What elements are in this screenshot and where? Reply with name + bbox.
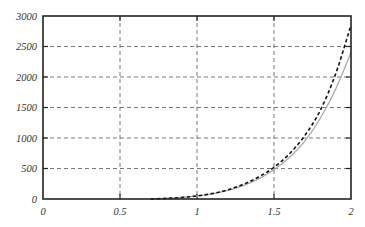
grid-lines	[43, 16, 351, 199]
x-tick-label: 2	[348, 206, 354, 217]
y-tick-label: 0	[32, 194, 38, 205]
y-axis-tick-labels: 050010001500200025003000	[15, 11, 38, 205]
y-tick-label: 500	[21, 163, 38, 174]
data-series	[151, 25, 351, 199]
x-tick-label: 1	[194, 206, 199, 217]
y-tick-label: 3000	[15, 11, 38, 22]
x-tick-label: 0.5	[113, 206, 126, 217]
y-tick-label: 1000	[16, 133, 38, 144]
x-tick-label: 1.5	[267, 206, 280, 217]
y-tick-label: 2500	[16, 41, 38, 52]
x-axis-tick-labels: 00.511.52	[40, 206, 354, 217]
line-chart: 050010001500200025003000 00.511.52	[0, 0, 365, 227]
y-tick-label: 1500	[16, 102, 38, 113]
y-tick-label: 2000	[16, 72, 38, 83]
series-line-dashed	[151, 25, 351, 199]
series-line-solid	[151, 53, 351, 199]
x-tick-label: 0	[40, 206, 46, 217]
